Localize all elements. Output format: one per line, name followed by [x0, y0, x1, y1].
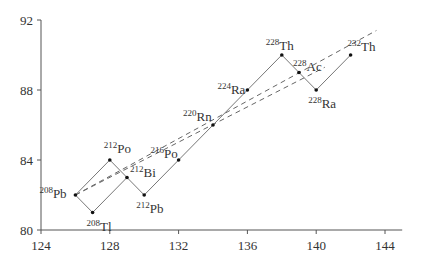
- nuclide-label-212po: 212Po: [104, 140, 131, 156]
- decay-edge: [93, 178, 127, 213]
- y-tick-label: 84: [20, 153, 34, 168]
- nuclide-label-224ra: 224Ra: [217, 81, 245, 97]
- nuclide-label-208pb: 208Pb: [39, 185, 66, 201]
- nuclide-marker: [74, 193, 78, 197]
- nuclide-marker: [246, 88, 250, 92]
- y-tick-label: 80: [20, 223, 33, 238]
- nuclide-marker: [211, 123, 215, 127]
- nuclide-label-208tl: 208Tl: [87, 218, 112, 234]
- decay-chain-chart: 80848892124128132136140144 232Th228Ra228…: [0, 0, 424, 267]
- x-tick-label: 140: [306, 238, 326, 253]
- decay-edge: [127, 178, 144, 196]
- nuclide-marker: [280, 53, 284, 57]
- x-tick-label: 136: [238, 238, 258, 253]
- decay-edge: [179, 125, 213, 160]
- y-tick-label: 88: [20, 83, 33, 98]
- y-tick-label: 92: [20, 13, 33, 28]
- nuclide-marker: [125, 176, 129, 180]
- x-tick-label: 144: [375, 238, 395, 253]
- nuclide-marker: [91, 211, 95, 215]
- nuclide-marker: [314, 88, 318, 92]
- dashed-trend-line: [75, 67, 324, 195]
- nuclide-marker: [142, 193, 146, 197]
- x-tick-label: 124: [31, 238, 51, 253]
- nuclide-label-212bi: 212Bi: [130, 164, 156, 180]
- x-tick-label: 132: [169, 238, 189, 253]
- x-tick-label: 128: [100, 238, 120, 253]
- decay-edge: [75, 195, 92, 213]
- nuclide-label-228ra: 228Ra: [308, 95, 336, 111]
- nuclide-marker: [349, 53, 353, 57]
- decay-edges: [75, 55, 350, 213]
- nuclide-label-212pb: 212Pb: [136, 200, 163, 216]
- nuclide-marker: [297, 71, 301, 75]
- decay-edge: [75, 160, 109, 195]
- nuclide-marker: [108, 158, 112, 162]
- nuclide-label-220rn: 220Rn: [183, 108, 212, 124]
- nuclide-label-228th: 228Th: [266, 37, 294, 53]
- decay-edge: [299, 73, 316, 91]
- axes: 80848892124128132136140144: [20, 13, 402, 253]
- nuclide-points: 232Th228Ra228Ac228Th224Ra220Rn216Po212Pb…: [39, 37, 376, 234]
- nuclide-label-232th: 232Th: [348, 38, 376, 54]
- nuclide-label-216po: 216Po: [151, 145, 178, 161]
